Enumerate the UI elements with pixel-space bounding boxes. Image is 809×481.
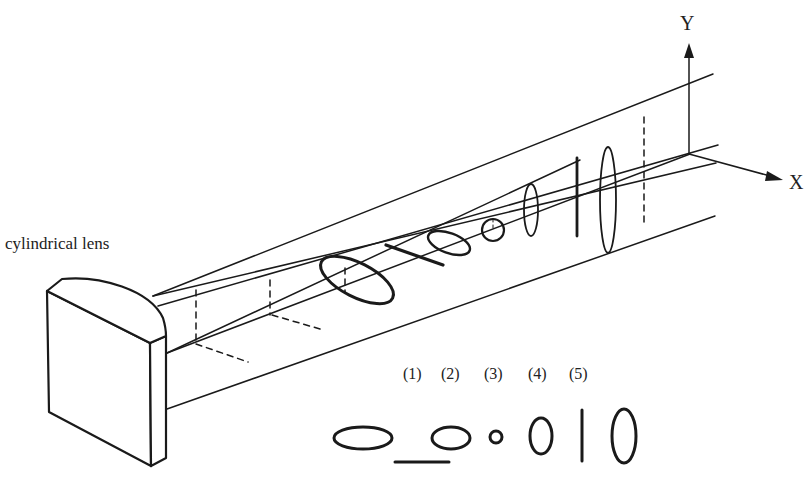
x-arrowhead-icon (765, 171, 783, 181)
lens-label: cylindrical lens (5, 234, 109, 254)
cylindrical-lens (47, 278, 166, 466)
section-6-ellipse (600, 147, 616, 253)
legend-shape-ellipse-tall (530, 418, 552, 454)
section-index-2: (2) (441, 365, 460, 383)
section-2-ellipse (425, 226, 473, 260)
x-axis (689, 154, 770, 176)
x-axis-label: X (789, 171, 803, 194)
section-index-5: (5) (569, 365, 588, 383)
section-index-4: (4) (528, 365, 547, 383)
section-index-1: (1) (403, 365, 422, 383)
y-arrowhead-icon (684, 43, 694, 58)
legend-shape-circle (490, 431, 502, 443)
y-axis-label: Y (680, 12, 694, 35)
section-4-ellipse (524, 184, 538, 236)
astigmatic-beam-diagram (0, 0, 809, 481)
legend-shape-ellipse-wide (334, 427, 392, 449)
axes (684, 43, 783, 181)
section-2-line (386, 245, 443, 265)
section-index-3: (3) (484, 365, 503, 383)
legend-shape-ellipse-small (432, 427, 470, 449)
dashed-guides (196, 117, 644, 362)
cross-section-legend (334, 409, 636, 463)
legend-shape-ellipse-tall-large (612, 409, 636, 463)
